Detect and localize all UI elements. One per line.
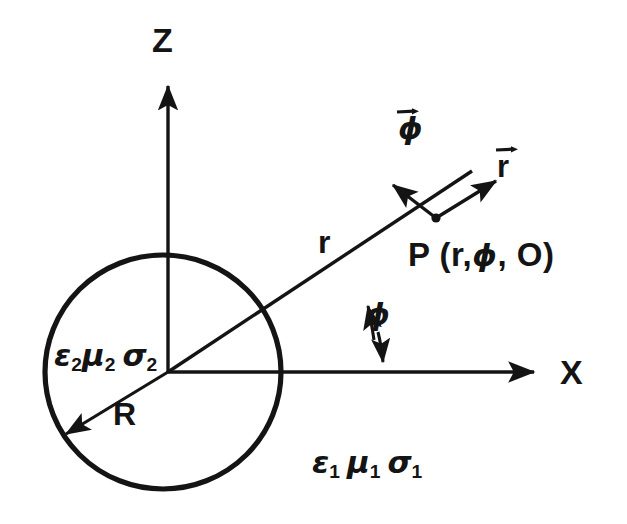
point-label-phi: ϕ xyxy=(472,237,497,273)
outer-medium-label: ε1μ1σ1 xyxy=(312,447,422,482)
phi-hat-vector xyxy=(393,185,436,218)
outer-permeability-sub: 1 xyxy=(370,461,381,482)
inner-permittivity-symbol: ε xyxy=(54,337,71,373)
figure-canvas: Z X R r ϕ P (r,ϕ, O) r ϕ ε2μ2σ2 xyxy=(0,0,627,524)
r-hat-letter: r xyxy=(497,149,509,184)
inner-permittivity-sub: 2 xyxy=(71,354,82,375)
observation-point-label: P (r,ϕ, O) xyxy=(408,238,554,271)
outer-permeability-symbol: μ xyxy=(347,444,370,480)
outer-permittivity-symbol: ε xyxy=(312,444,329,480)
r-hat-vector xyxy=(436,181,496,218)
phi-hat-letter: ϕ xyxy=(398,110,423,146)
radial-distance-label: r xyxy=(318,226,330,258)
point-label-prefix: P (r, xyxy=(408,236,472,273)
outer-conductivity-symbol: σ xyxy=(387,444,411,480)
outer-permittivity-sub: 1 xyxy=(329,461,340,482)
phi-hat-label: ϕ xyxy=(398,110,423,144)
azimuth-angle-label: ϕ xyxy=(366,300,390,330)
point-label-suffix: , O) xyxy=(497,236,554,273)
radius-label: R xyxy=(113,398,136,430)
inner-medium-label: ε2μ2σ2 xyxy=(54,340,157,375)
inner-conductivity-sub: 2 xyxy=(147,354,158,375)
inner-conductivity-symbol: σ xyxy=(122,337,146,373)
angle-arc-lower xyxy=(378,332,383,362)
r-hat-label: r xyxy=(497,148,509,182)
inner-permeability-sub: 2 xyxy=(105,354,116,375)
outer-conductivity-sub: 1 xyxy=(412,461,423,482)
z-axis-label: Z xyxy=(152,23,173,57)
inner-permeability-symbol: μ xyxy=(82,337,105,373)
x-axis-label: X xyxy=(560,355,583,389)
